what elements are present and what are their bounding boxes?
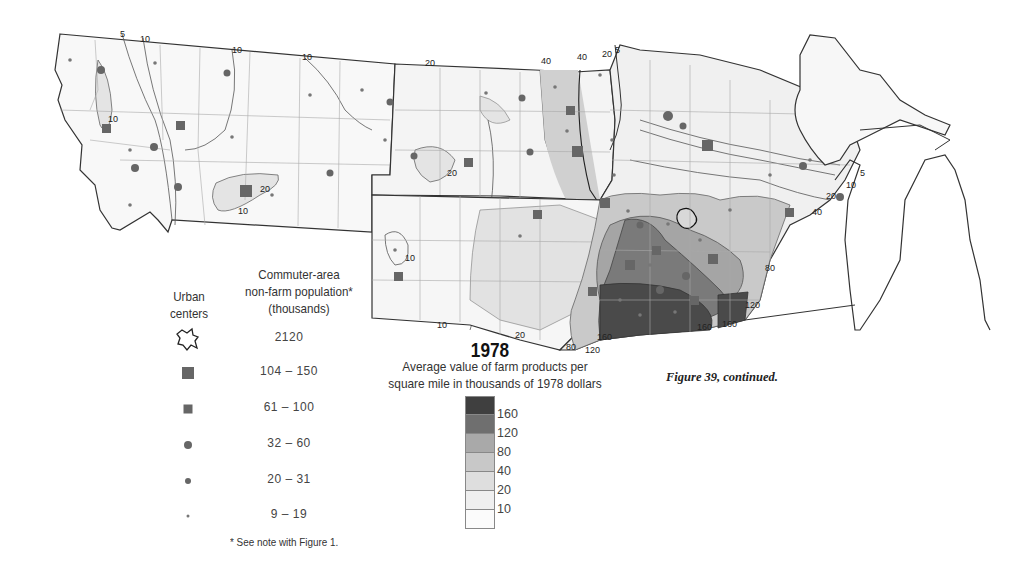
contour-label: 10 [108, 114, 118, 124]
contour-label: 20 [826, 191, 836, 201]
contour-label: 120 [745, 300, 760, 310]
contour-label: 20 [447, 168, 457, 178]
large-square-icon [182, 367, 194, 379]
header-urban-line1: Urban [169, 288, 209, 305]
footnote: * See note with Figure 1. [230, 536, 338, 548]
small-dot-icon [187, 515, 190, 518]
legend-header-commuter: Commuter-area non-farm population* (thou… [235, 266, 364, 317]
medium-circle-icon [185, 478, 191, 484]
contour-label: 80 [566, 342, 576, 352]
contour-label: 10 [846, 180, 856, 190]
legend-value: 104 – 150 [234, 364, 344, 378]
contour-label: 40 [812, 207, 822, 217]
contour-label: 5 [615, 45, 620, 55]
contour-label: 10 [232, 45, 242, 55]
subtitle-line2: square mile in thousands of 1978 dollars [385, 375, 605, 392]
legend-row-urban-center: 2120 [140, 328, 380, 350]
scale-label: 80 [497, 445, 511, 459]
legend-header-urban: Urban centers [169, 288, 209, 322]
contour-label: 10 [140, 34, 150, 44]
legend-row-large-circle: 32 – 60 [140, 434, 380, 456]
medium-square-icon [184, 405, 193, 414]
large-circle-icon [184, 441, 192, 449]
contour-label: 5 [860, 168, 865, 178]
contour-label: 10 [302, 52, 312, 62]
scale-label: 120 [497, 426, 518, 440]
map-subtitle: Average value of farm products per squar… [385, 358, 605, 392]
urban-center-outline-icon [175, 326, 201, 352]
contour-label: 160 [597, 332, 612, 342]
header-commuter-line1: Commuter-area [235, 266, 364, 283]
scale-label: 160 [497, 407, 518, 421]
figure-caption: Figure 39, continued. [666, 370, 778, 385]
scale-label: 20 [497, 483, 511, 497]
scale-label: 10 [497, 502, 511, 516]
legend-value: 20 – 31 [234, 472, 344, 486]
legend-row-large-square: 104 – 150 [140, 362, 380, 384]
header-commuter-line2: non-farm population* [235, 283, 364, 300]
scale-box-over-160 [465, 396, 495, 415]
contour-label: 20 [425, 58, 435, 68]
legend-value: 32 – 60 [234, 436, 344, 450]
contour-label: 80 [765, 263, 775, 273]
subtitle-line1: Average value of farm products per [385, 358, 605, 375]
contour-label: 5 [120, 29, 125, 39]
contour-label: 10 [238, 206, 248, 216]
shading-scale-legend: 160 120 80 40 20 10 [465, 396, 495, 529]
contour-label: 20 [602, 49, 612, 59]
scale-box-10-20 [465, 491, 495, 510]
scale-box-80-120 [465, 434, 495, 453]
contour-label: 160 [697, 322, 712, 332]
legend-row-small-dot: 9 – 19 [140, 505, 380, 527]
legend-value: 2120 [234, 330, 344, 344]
scale-box-20-40 [465, 472, 495, 491]
header-urban-line2: centers [169, 305, 209, 322]
scale-label: 40 [497, 464, 511, 478]
legend-value: 9 – 19 [234, 507, 344, 521]
legend-row-medium-circle: 20 – 31 [140, 470, 380, 492]
scale-box-40-80 [465, 453, 495, 472]
scale-box-120-160 [465, 415, 495, 434]
contour-label: 20 [260, 184, 270, 194]
header-commuter-line3: (thousands) [235, 300, 364, 317]
contour-label: 160 [722, 319, 737, 329]
contour-label: 40 [541, 56, 551, 66]
legend-row-medium-square: 61 – 100 [140, 398, 380, 420]
contour-label: 10 [437, 320, 447, 330]
scale-box-under-10 [465, 510, 495, 529]
contour-label: 120 [585, 345, 600, 355]
contour-label: 10 [405, 253, 415, 263]
upper-michigan-region [795, 35, 950, 165]
contour-label: 40 [577, 52, 587, 62]
legend-value: 61 – 100 [234, 400, 344, 414]
